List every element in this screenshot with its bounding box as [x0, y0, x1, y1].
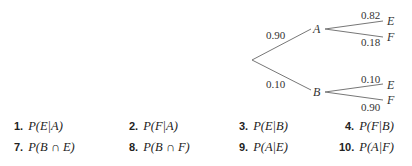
exercise-number: 8.	[129, 141, 138, 153]
node-B-E: E	[386, 78, 395, 92]
exercise-number: 10.	[339, 141, 354, 153]
prob-B-E: 0.10	[361, 73, 381, 85]
exercise-number: 3.	[239, 120, 248, 132]
exercise-expression: P(B ∩ F)	[143, 140, 190, 154]
node-A-F: F	[386, 30, 395, 44]
prob-root-B: 0.10	[266, 78, 286, 90]
exercise-9: 9.P(A|E)	[239, 140, 288, 155]
exercise-expression: P(B ∩ E)	[28, 140, 75, 154]
prob-root-A: 0.90	[266, 29, 286, 41]
exercise-4: 4.P(F|B)	[345, 119, 394, 134]
exercise-number: 9.	[239, 141, 248, 153]
exercise-1: 1.P(E|A)	[14, 119, 63, 134]
exercise-number: 4.	[345, 120, 354, 132]
probability-tree-diagram: 0.90 0.10 A B 0.82 0.18 0.10 0.90 E F E …	[0, 0, 412, 115]
exercise-number: 7.	[14, 141, 23, 153]
prob-A-F: 0.18	[361, 36, 381, 48]
exercise-3: 3.P(E|B)	[239, 119, 288, 134]
branch-B-E	[325, 84, 383, 92]
node-B: B	[313, 85, 321, 99]
exercise-expression: P(E|B)	[253, 119, 288, 133]
exercise-expression: P(A|F)	[359, 140, 394, 154]
node-A: A	[312, 22, 321, 36]
exercise-expression: P(F|B)	[359, 119, 394, 133]
exercise-number: 2.	[129, 120, 138, 132]
exercise-expression: P(F|A)	[143, 119, 178, 133]
exercise-8: 8.P(B ∩ F)	[129, 140, 190, 155]
branch-B-F	[325, 92, 383, 100]
prob-B-F: 0.90	[361, 101, 381, 113]
exercise-7: 7.P(B ∩ E)	[14, 140, 75, 155]
prob-A-E: 0.82	[361, 9, 380, 21]
branch-A-E	[325, 21, 383, 29]
exercise-10: 10.P(A|F)	[339, 140, 394, 155]
node-A-E: E	[386, 14, 395, 28]
node-B-F: F	[386, 93, 395, 107]
exercise-2: 2.P(F|A)	[129, 119, 178, 134]
exercise-expression: P(E|A)	[28, 119, 63, 133]
exercise-expression: P(A|E)	[253, 140, 288, 154]
exercise-number: 1.	[14, 120, 23, 132]
